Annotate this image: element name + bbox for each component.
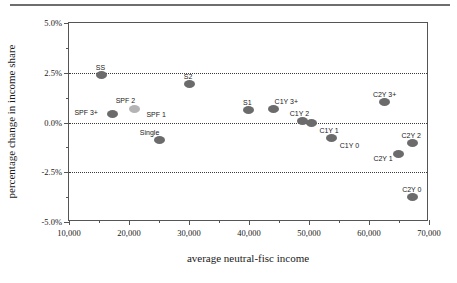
gridline-y <box>69 73 427 74</box>
data-point-label: SPF 2 <box>116 97 135 105</box>
data-point-marker <box>268 105 279 113</box>
x-tick-major <box>429 220 430 225</box>
x-tick-label: 10,000 <box>57 228 80 238</box>
x-tick-minor <box>159 220 160 223</box>
data-point-label: C1Y 3+ <box>275 98 298 106</box>
y-tick-major <box>64 73 69 74</box>
x-tick-major <box>369 220 370 225</box>
x-tick-major <box>129 220 130 225</box>
data-point-marker <box>326 134 337 142</box>
gridline-y <box>69 172 427 173</box>
y-tick-major <box>64 23 69 24</box>
data-point-marker <box>306 119 317 127</box>
plot-area: 5.0%2.5%0.0%-2.5%-5.0% 10,00020,00030,00… <box>68 22 428 221</box>
data-point-label: C2Y 2 <box>402 132 421 140</box>
data-point-marker <box>379 98 390 106</box>
x-tick-label: 30,000 <box>177 228 200 238</box>
data-point-marker <box>184 80 195 88</box>
x-tick-major <box>69 220 70 225</box>
x-axis-title: average neutral-fisc income <box>68 252 428 264</box>
y-tick-label: 5.0% <box>44 18 62 28</box>
x-tick-minor <box>279 220 280 223</box>
data-point-label: SPF 1 <box>146 111 165 119</box>
y-tick-minor <box>66 98 69 99</box>
data-point-marker <box>129 105 140 113</box>
scatter-chart-figure: percentage change in income share 5.0%2.… <box>0 0 457 283</box>
data-point-label: SPF 3+ <box>74 109 98 117</box>
x-tick-minor <box>399 220 400 223</box>
data-point-label: C1Y 2 <box>290 110 309 118</box>
x-tick-minor <box>99 220 100 223</box>
y-tick-label: -5.0% <box>41 217 62 227</box>
x-tick-minor <box>339 220 340 223</box>
data-point-label: S1 <box>243 99 252 107</box>
x-tick-major <box>309 220 310 225</box>
x-tick-minor <box>219 220 220 223</box>
data-point-marker <box>407 139 418 147</box>
x-tick-label: 60,000 <box>357 228 380 238</box>
data-point-marker <box>154 136 165 144</box>
y-tick-label: 2.5% <box>44 68 62 78</box>
y-tick-major <box>64 123 69 124</box>
x-tick-label: 70,000 <box>417 228 440 238</box>
top-divider-rule <box>10 4 450 6</box>
x-tick-major <box>249 220 250 225</box>
x-tick-major <box>189 220 190 225</box>
data-point-label: C2Y 3+ <box>373 91 396 99</box>
data-point-marker <box>243 106 254 114</box>
gridline-y <box>69 123 427 124</box>
x-tick-label: 50,000 <box>297 228 320 238</box>
y-tick-minor <box>66 197 69 198</box>
x-tick-label: 40,000 <box>237 228 260 238</box>
y-tick-minor <box>66 147 69 148</box>
y-tick-label: -2.5% <box>41 167 62 177</box>
data-point-label: Single <box>140 129 159 137</box>
data-point-label: S2 <box>184 73 193 81</box>
x-tick-label: 20,000 <box>117 228 140 238</box>
data-point-marker <box>407 193 418 201</box>
data-point-marker <box>393 150 404 158</box>
y-tick-label: 0.0% <box>44 118 62 128</box>
data-point-marker <box>96 71 107 79</box>
data-point-marker <box>107 110 118 118</box>
data-point-label: SS <box>96 64 105 72</box>
data-point-label: C2Y 1 <box>373 155 392 163</box>
y-tick-minor <box>66 48 69 49</box>
y-tick-major <box>64 172 69 173</box>
data-point-label: C1Y 0 <box>340 142 359 150</box>
data-point-label: C2Y 0 <box>402 186 421 194</box>
